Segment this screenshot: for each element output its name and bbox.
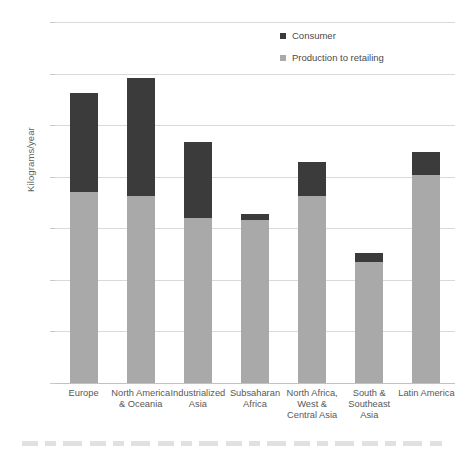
gridline xyxy=(55,74,455,75)
bar-europe xyxy=(70,93,98,383)
bar-segment-production xyxy=(241,220,269,383)
y-axis-tick-mark xyxy=(50,383,55,384)
y-axis-tick-mark xyxy=(50,125,55,126)
stacked-bar-chart: Kilograms/year 050100150200250300350 Con… xyxy=(0,0,467,450)
legend-item-production-to-retailing: Production to retailing xyxy=(280,52,384,63)
y-axis-tick-mark xyxy=(50,280,55,281)
legend-swatch-icon xyxy=(280,33,286,39)
y-axis-tick-mark xyxy=(50,22,55,23)
gridline xyxy=(55,383,455,384)
y-axis-tick-mark xyxy=(50,331,55,332)
bar-segment-production xyxy=(412,175,440,383)
bar-segment-consumer xyxy=(241,214,269,220)
chart-legend: ConsumerProduction to retailing xyxy=(280,30,384,74)
gridline xyxy=(55,125,455,126)
legend-label: Consumer xyxy=(292,30,336,41)
bar-segment-production xyxy=(70,192,98,383)
x-axis-category-label-line: Southeast xyxy=(335,399,404,410)
bar-segment-consumer xyxy=(412,152,440,175)
bar-segment-consumer xyxy=(127,78,155,197)
y-axis-tick-mark xyxy=(50,228,55,229)
x-axis-category-label-line: Latin America xyxy=(392,388,461,399)
x-axis-category-label: Latin America xyxy=(392,388,461,399)
y-axis-tick-mark xyxy=(50,177,55,178)
plot-area: 050100150200250300350 xyxy=(55,22,455,383)
bar-segment-production xyxy=(184,218,212,383)
legend-swatch-icon xyxy=(280,55,286,61)
bar-segment-production xyxy=(355,262,383,383)
x-axis-category-label-line: Asia xyxy=(335,410,404,421)
gridline xyxy=(55,22,455,23)
y-axis-tick-mark xyxy=(50,74,55,75)
bar-south-southeast-asia xyxy=(355,253,383,383)
bar-segment-production xyxy=(127,196,155,383)
bar-north-africa-west-central-asia xyxy=(298,162,326,383)
bar-segment-consumer xyxy=(70,93,98,192)
bar-segment-consumer xyxy=(298,162,326,196)
legend-item-consumer: Consumer xyxy=(280,30,384,41)
y-axis-title: Kilograms/year xyxy=(25,90,36,230)
bar-subsaharan-africa xyxy=(241,214,269,383)
caption-strip xyxy=(22,441,442,446)
bar-segment-production xyxy=(298,196,326,383)
bar-latin-america xyxy=(412,152,440,383)
bar-industrialized-asia xyxy=(184,142,212,383)
legend-label: Production to retailing xyxy=(292,52,384,63)
bar-segment-consumer xyxy=(184,142,212,218)
bar-north-america-oceania xyxy=(127,78,155,383)
bar-segment-consumer xyxy=(355,253,383,262)
gridline xyxy=(55,177,455,178)
